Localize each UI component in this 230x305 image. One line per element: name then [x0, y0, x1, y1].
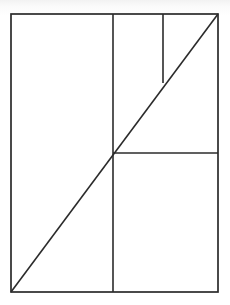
figure-canvas	[0, 0, 230, 305]
line-drawing	[0, 0, 230, 305]
